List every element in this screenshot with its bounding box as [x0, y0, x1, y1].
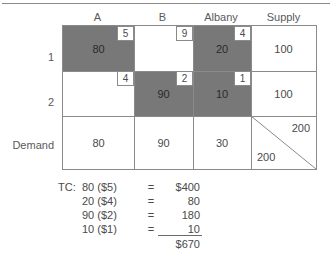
cost-box-1-b: 9 — [176, 26, 193, 41]
calc-line-2-expr: 20 ($4) — [82, 195, 144, 207]
calc-line-1-expr: 80 ($5) — [82, 181, 144, 193]
total-demand-value: 200 — [257, 151, 275, 163]
cell-2-albany-amount: 10 — [193, 88, 251, 100]
calc-line-3: 90 ($2) = 180 — [58, 209, 202, 223]
calc-line-1-eq: = — [144, 181, 158, 193]
grid-hline-row2-demand — [63, 116, 316, 117]
calc-line-3-expr: 90 ($2) — [82, 209, 144, 221]
cell-1-supply-value: 100 — [251, 43, 316, 55]
cell-2-supply-value: 100 — [251, 88, 316, 100]
calc-line-4: 10 ($1) = 10 — [58, 223, 202, 237]
calc-line-1-value: $400 — [158, 181, 202, 193]
calc-line-2: 20 ($4) = 80 — [58, 195, 202, 209]
cell-demand-albany: 30 — [193, 116, 251, 169]
calc-total-spacer — [58, 238, 158, 252]
cost-box-1-a: 5 — [117, 26, 134, 41]
cost-box-2-albany: 1 — [234, 71, 251, 86]
calc-line-2-eq: = — [144, 195, 158, 207]
column-header-a: A — [62, 9, 133, 25]
calc-total-row: $670 — [58, 238, 202, 252]
calc-line-2-value: 80 — [158, 195, 202, 207]
cell-demand-a-value: 80 — [63, 137, 134, 149]
cost-box-2-b: 2 — [176, 71, 193, 86]
row-label-demand: Demand — [12, 139, 54, 151]
column-header-supply: Supply — [250, 9, 317, 25]
calc-line-1: TC: 80 ($5) = $400 — [58, 181, 202, 195]
cell-2-supply: 100 — [251, 71, 316, 116]
row-label-2: 2 — [48, 96, 54, 108]
grid-vline-a-b — [134, 26, 135, 169]
grid-vline-albany-supply — [251, 26, 252, 169]
calc-line-4-eq: = — [144, 223, 158, 235]
cost-box-2-a: 4 — [117, 71, 134, 86]
calc-label: TC: — [58, 181, 82, 193]
calc-line-4-value: 10 — [158, 223, 202, 236]
cell-demand-b-value: 90 — [134, 137, 193, 149]
cost-box-1-albany: 4 — [234, 26, 251, 41]
cell-demand-b: 90 — [134, 116, 193, 169]
column-header-b: B — [133, 9, 192, 25]
cell-1-a-amount: 80 — [63, 43, 134, 55]
transportation-tableau: 80 20 100 90 10 100 80 90 30 200 200 — [62, 25, 317, 170]
total-cost-calculation: TC: 80 ($5) = $400 20 ($4) = 80 90 ($2) … — [58, 181, 202, 252]
cell-totals-corner: 200 200 — [251, 116, 316, 169]
calc-line-3-eq: = — [144, 209, 158, 221]
row-label-1: 1 — [48, 51, 54, 63]
calc-line-4-expr: 10 ($1) — [82, 223, 144, 235]
cell-1-supply: 100 — [251, 26, 316, 71]
grid-vline-b-albany — [193, 26, 194, 169]
calc-total-value: $670 — [158, 238, 202, 252]
cell-demand-albany-value: 30 — [193, 137, 251, 149]
cell-demand-a: 80 — [63, 116, 134, 169]
cell-2-b-amount: 90 — [134, 88, 193, 100]
total-supply-value: 200 — [292, 122, 310, 134]
calc-line-3-value: 180 — [158, 209, 202, 221]
top-divider-rule — [2, 3, 330, 4]
column-header-albany: Albany — [192, 9, 250, 25]
cell-1-albany-amount: 20 — [193, 43, 251, 55]
column-header-row: A B Albany Supply — [62, 9, 317, 25]
